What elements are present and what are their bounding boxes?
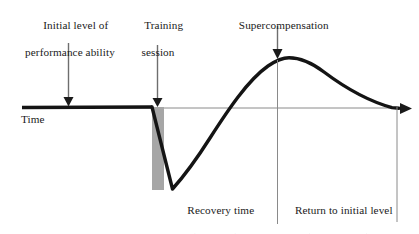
time-axis-arrowhead (400, 103, 412, 114)
label-return-to-initial-line1: Return to initial level (295, 204, 393, 216)
label-recovery-time-line2: (2-3 days) (155, 231, 275, 234)
label-return-to-initial-line2: (3 more days) (279, 231, 397, 234)
label-return-to-initial: Return to initial level (3 more days) (279, 191, 397, 234)
performance-ability-curve (152, 58, 399, 189)
label-training-session-line1: Training (144, 19, 183, 31)
label-initial-level: Initial level of performance ability (8, 6, 132, 85)
label-supercompensation: Supercompensation (217, 6, 339, 46)
label-initial-level-line2: performance ability (8, 46, 132, 59)
label-initial-level-line1: Initial level of (43, 19, 108, 31)
label-training-session: Training session (129, 6, 187, 85)
label-supercompensation-line1: Supercompensation (239, 19, 329, 31)
initial-level-segment (22, 107, 152, 108)
supercompensation-diagram: Initial level of performance ability Tra… (0, 0, 419, 234)
label-recovery-time-line1: Recovery time (187, 204, 254, 216)
label-time-axis: Time (21, 113, 61, 126)
label-recovery-time: Recovery time (2-3 days) (155, 191, 275, 234)
label-training-session-line2: session (129, 46, 187, 59)
